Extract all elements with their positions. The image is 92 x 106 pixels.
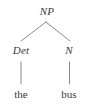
tree-terminal-the: the xyxy=(14,89,27,100)
tree-node-n: N xyxy=(65,45,73,56)
branch-np-n xyxy=(46,22,70,41)
tree-node-np: NP xyxy=(40,6,54,17)
syntax-tree-figure: NP Det N the bus xyxy=(0,0,92,106)
tree-terminal-bus: bus xyxy=(61,89,76,100)
branch-np-det xyxy=(21,22,46,41)
tree-node-det: Det xyxy=(13,45,29,56)
